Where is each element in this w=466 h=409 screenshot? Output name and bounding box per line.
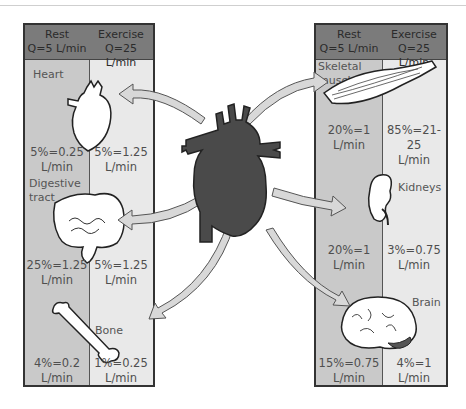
heart-icon [182, 104, 280, 242]
arrow-to-heart [119, 84, 205, 124]
flow-arrows [0, 0, 466, 409]
arrow-to-bone [149, 222, 234, 319]
arrow-to-muscle [244, 72, 328, 124]
arrow-to-digestive [118, 196, 204, 230]
arrow-to-brain [266, 228, 350, 306]
arrow-to-kidneys [272, 188, 346, 216]
